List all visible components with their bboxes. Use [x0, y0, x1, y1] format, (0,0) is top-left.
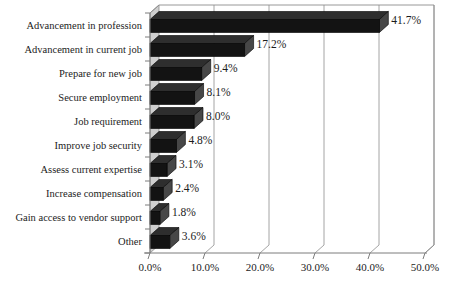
floor-connector-4 — [370, 245, 379, 253]
x-tick-4 — [368, 253, 370, 259]
x-tick-label: 40.0% — [356, 261, 384, 273]
bar-front-face — [150, 188, 163, 201]
value-label: 41.7% — [391, 14, 421, 26]
x-tick-label: 0.0% — [139, 261, 162, 273]
x-tick-5 — [423, 253, 425, 259]
value-label: 3.6% — [182, 230, 206, 242]
bar-front-face — [150, 20, 379, 33]
category-label: Increase compensation — [46, 188, 143, 199]
floor-connector-2 — [260, 245, 269, 253]
bar-front-face — [150, 92, 195, 105]
bar — [150, 12, 388, 33]
bar — [150, 84, 204, 105]
category-label: Improve job security — [55, 140, 143, 151]
bar-front-face — [150, 140, 176, 153]
value-label: 4.8% — [188, 134, 212, 146]
value-label: 8.0% — [206, 110, 230, 122]
floor-connector-1 — [205, 245, 214, 253]
bar — [150, 132, 185, 153]
category-label: Assess current expertise — [41, 164, 143, 175]
category-label: Advancement in current job — [25, 44, 143, 55]
x-tick-label: 20.0% — [246, 261, 274, 273]
value-label: 3.1% — [179, 158, 203, 170]
category-labels: Advancement in professionAdvancement in … — [15, 20, 142, 247]
bar-chart: Advancement in professionAdvancement in … — [0, 0, 450, 281]
x-tick-labels: 0.0%10.0%20.0%30.0%40.0%50.0% — [139, 261, 440, 273]
x-tick-label: 30.0% — [301, 261, 329, 273]
value-label: 9.4% — [214, 62, 238, 74]
category-label: Other — [118, 236, 142, 247]
bar-front-face — [150, 44, 245, 57]
bar — [150, 108, 203, 129]
category-label: Job requirement — [74, 116, 142, 127]
x-tick-1 — [203, 253, 205, 259]
bar-front-face — [150, 164, 167, 177]
bar — [150, 60, 211, 81]
category-label: Prepare for new job — [59, 68, 142, 79]
x-tick-label: 10.0% — [191, 261, 219, 273]
x-tick-3 — [313, 253, 315, 259]
category-label: Gain access to vendor support — [15, 212, 142, 223]
value-label: 1.8% — [172, 206, 196, 218]
category-label: Advancement in profession — [27, 20, 143, 31]
bar-top-face — [150, 60, 211, 68]
bar — [150, 36, 254, 57]
bar-front-face — [150, 212, 160, 225]
x-tick-label: 50.0% — [411, 261, 439, 273]
x-tick-0 — [148, 253, 150, 259]
chart-canvas: Advancement in professionAdvancement in … — [0, 0, 450, 281]
category-label: Secure employment — [58, 92, 142, 103]
bar-front-face — [150, 68, 202, 81]
value-label: 17.2% — [257, 38, 287, 50]
value-label: 2.4% — [175, 182, 199, 194]
floor-connector-3 — [315, 245, 324, 253]
bar-top-face — [150, 36, 254, 44]
bar-front-face — [150, 236, 170, 249]
bar-front-face — [150, 116, 194, 129]
x-tick-2 — [258, 253, 260, 259]
bar-top-face — [150, 12, 388, 20]
value-label: 8.1% — [207, 86, 231, 98]
